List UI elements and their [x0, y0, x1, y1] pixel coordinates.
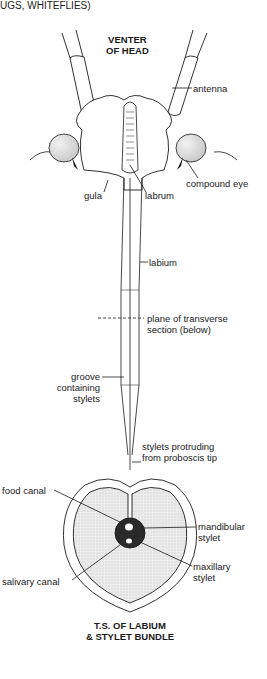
- label-mandibular-line2: stylet: [198, 532, 245, 543]
- label-maxillary-line1: maxillary: [193, 561, 230, 572]
- label-groove-line3: stylets: [40, 393, 100, 404]
- compound-eye-left: [30, 134, 79, 170]
- label-mandibular-line1: mandibular: [198, 521, 245, 532]
- label-labium: labium: [149, 257, 177, 268]
- cross-section-title: T.S. OF LABIUM & STYLET BUNDLE: [72, 620, 188, 642]
- cross-section-title-line2: & STYLET BUNDLE: [72, 631, 188, 642]
- label-gula: gula: [84, 190, 102, 201]
- label-labrum: labrum: [145, 190, 174, 201]
- label-groove-line1: groove: [40, 371, 100, 382]
- labrum: [122, 102, 138, 173]
- label-plane-line2: section (below): [147, 324, 228, 335]
- label-stylets-protruding: stylets protruding from proboscis tip: [142, 441, 217, 463]
- label-maxillary-stylet: maxillary stylet: [193, 561, 230, 583]
- head-view-title: VENTER OF HEAD: [106, 34, 149, 56]
- label-stylets-line2: from proboscis tip: [142, 452, 217, 463]
- label-plane-of-section: plane of transverse section (below): [147, 313, 228, 335]
- antenna-right: [168, 30, 207, 116]
- label-food-canal: food canal: [2, 485, 46, 496]
- label-mandibular-stylet: mandibular stylet: [198, 521, 245, 543]
- labium-proboscis: [121, 178, 142, 470]
- label-plane-line1: plane of transverse: [147, 313, 228, 324]
- compound-eye-right: [176, 134, 237, 170]
- label-compound-eye: compound eye: [186, 178, 248, 189]
- label-salivary-canal: salivary canal: [2, 576, 60, 587]
- head-view-title-line2: OF HEAD: [106, 45, 149, 56]
- label-maxillary-line2: stylet: [193, 572, 230, 583]
- label-groove-line2: containing: [40, 382, 100, 393]
- label-antenna: antenna: [193, 83, 227, 94]
- label-groove: groove containing stylets: [40, 371, 100, 404]
- caption-fragment: UGS, WHITEFLIES): [0, 0, 91, 11]
- cross-section-title-line1: T.S. OF LABIUM: [72, 620, 188, 631]
- head-view-title-line1: VENTER: [106, 34, 149, 45]
- labium-cross-section: [63, 479, 196, 612]
- label-stylets-line1: stylets protruding: [142, 441, 217, 452]
